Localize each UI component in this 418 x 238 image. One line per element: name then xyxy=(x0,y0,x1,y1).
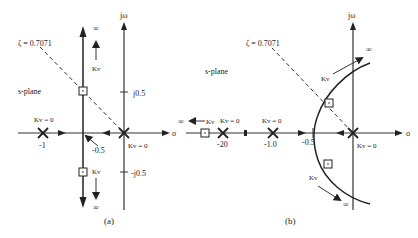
kv-upper-arrow-icon xyxy=(333,58,362,74)
sigma-arrow-icon xyxy=(162,130,170,136)
kv-lower-arrow-icon xyxy=(318,186,340,200)
pole-minus1-kv-label: Kv = 0 xyxy=(262,117,282,125)
panel-b: ∞ Kv σ jω ζ = 0.7071 s-plane xyxy=(178,11,411,226)
zeta-label-a: ζ = 0.7071 xyxy=(18,39,52,48)
pole-origin-kv-label-b: Kv = 0 xyxy=(357,142,377,150)
infinity-lower-b: ∞ xyxy=(343,200,349,209)
infinity-upper-b: ∞ xyxy=(366,45,372,54)
pole-minus1-value: -1.0 xyxy=(264,140,277,149)
kv-upper-label-b: Kv xyxy=(321,75,330,83)
panel-a: σ jω j0.5 -j0.5 ζ = 0.7071 s-plane xyxy=(18,11,177,226)
infinity-left-b: ∞ xyxy=(178,117,184,126)
breakaway-pointer xyxy=(86,136,98,146)
real-axis-right-arrow-icon xyxy=(58,130,66,136)
kv-lower-label-b: Kv xyxy=(309,174,318,182)
caption-a: (a) xyxy=(104,216,114,226)
zeta-line-b xyxy=(272,48,353,133)
pole-minus20-kv-label: Kv = 0 xyxy=(220,117,240,125)
real-axis-right-arrow-icon xyxy=(298,130,306,136)
breakaway-label-a: -0.5 xyxy=(92,146,105,155)
pole-minus20-value: -20 xyxy=(217,140,228,149)
splane-label-a: s-plane xyxy=(18,87,42,96)
splane-label-b: s-plane xyxy=(205,67,229,76)
real-axis-left-arrow-icon xyxy=(336,130,344,136)
jw-arrow-icon xyxy=(121,22,127,30)
root-locus-diagram: σ jω j0.5 -j0.5 ζ = 0.7071 s-plane xyxy=(0,0,418,238)
locus-down-arrow-icon xyxy=(80,197,87,208)
breakin-point-b xyxy=(244,130,247,136)
jw-label-a: jω xyxy=(119,11,128,20)
pole-minus1-kv-label: Kv = 0 xyxy=(34,116,54,124)
sigma-arrow-icon xyxy=(395,130,403,136)
locus-up-arrow-icon xyxy=(80,26,87,37)
tick-m05-label: -0.5 xyxy=(302,138,315,147)
infinity-up-a: ∞ xyxy=(93,24,99,33)
sigma-label-b: σ xyxy=(406,129,411,138)
pole-origin-kv-label: Kv = 0 xyxy=(128,142,148,150)
caption-b: (b) xyxy=(285,216,296,226)
kv-down-label-a: Kv xyxy=(92,168,101,176)
kv-up-label-a: Kv xyxy=(92,65,101,73)
sigma-label-a: σ xyxy=(172,129,177,138)
tick-j05-label: j0.5 xyxy=(132,89,145,98)
jw-label-b: jω xyxy=(347,11,356,20)
real-axis-left-arrow-icon xyxy=(102,130,110,136)
pole-minus1-value: -1 xyxy=(39,141,46,150)
zeta-label-b: ζ = 0.7071 xyxy=(246,39,280,48)
infinity-down-a: ∞ xyxy=(93,203,99,212)
jw-arrow-icon xyxy=(350,22,356,30)
tick-mj05-label: -j0.5 xyxy=(131,169,146,178)
kv-left-label-b: Kv xyxy=(206,118,215,126)
